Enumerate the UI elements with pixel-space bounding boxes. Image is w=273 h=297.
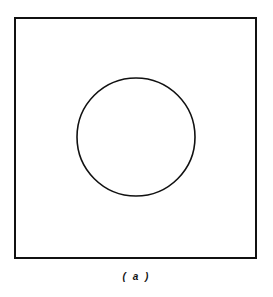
figure-canvas xyxy=(0,0,273,297)
figure-caption: ( a ) xyxy=(0,271,273,282)
inner-circle xyxy=(77,78,195,196)
outer-square xyxy=(15,18,256,258)
